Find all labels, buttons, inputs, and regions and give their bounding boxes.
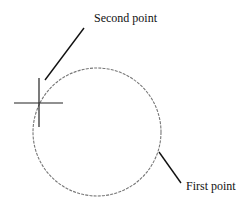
second-point-label: Second point bbox=[94, 12, 157, 24]
second-point-leader-line bbox=[45, 28, 84, 80]
first-point-leader-line bbox=[159, 152, 181, 183]
first-point-label: First point bbox=[186, 180, 236, 192]
crosshair-cursor-icon bbox=[14, 78, 63, 127]
circle-shape bbox=[33, 68, 161, 196]
